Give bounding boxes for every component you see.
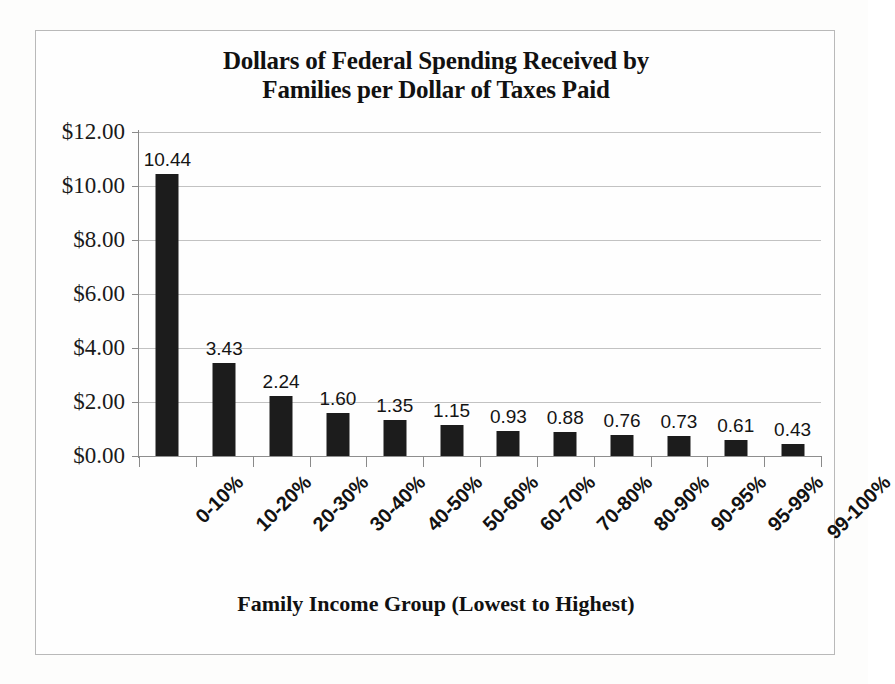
- x-axis-category-label: 90-95%: [706, 471, 771, 536]
- bar[interactable]: [270, 396, 293, 456]
- bar[interactable]: [213, 363, 236, 456]
- x-axis-tick: [253, 456, 254, 467]
- plot-area: $0.00$2.00$4.00$6.00$8.00$10.00$12.00 10…: [139, 132, 821, 456]
- x-axis-category-label: 99-100%: [823, 471, 895, 544]
- chart-title-line-1: Dollars of Federal Spending Received by: [96, 46, 776, 75]
- y-axis-tick-label: $8.00: [73, 227, 125, 253]
- x-axis-tick: [764, 456, 765, 467]
- x-axis-category-label: 10-20%: [251, 471, 316, 536]
- y-axis-tick: [132, 348, 139, 349]
- x-axis-category-label: 70-80%: [592, 471, 657, 536]
- x-axis-tick: [310, 456, 311, 467]
- bar[interactable]: [383, 420, 406, 456]
- x-axis-tick: [423, 456, 424, 467]
- bar-slot: 0.43: [764, 132, 821, 456]
- bar-slot: 0.61: [707, 132, 764, 456]
- bar-slot: 0.76: [594, 132, 651, 456]
- x-axis-title: Family Income Group (Lowest to Highest): [36, 591, 836, 617]
- x-axis-tick: [366, 456, 367, 467]
- bar-value-label: 3.43: [206, 338, 243, 360]
- x-axis-tick: [707, 456, 708, 467]
- x-axis-tick: [651, 456, 652, 467]
- bar-value-label: 0.73: [660, 411, 697, 433]
- x-axis-category-labels: 0-10%10-20%20-30%30-40%40-50%50-60%60-70…: [139, 471, 821, 581]
- bar-slot: 2.24: [253, 132, 310, 456]
- bar-value-label: 10.44: [144, 149, 192, 171]
- bar[interactable]: [781, 444, 804, 456]
- bar-slot: 1.60: [310, 132, 367, 456]
- x-axis-tick: [594, 456, 595, 467]
- x-axis-tick: [480, 456, 481, 467]
- bar-value-label: 0.76: [604, 410, 641, 432]
- y-axis-tick-label: $4.00: [73, 335, 125, 361]
- y-axis-tick-label: $0.00: [73, 443, 125, 469]
- bar-slot: 0.88: [537, 132, 594, 456]
- x-axis-tick: [139, 456, 140, 467]
- bar-value-label: 0.43: [774, 419, 811, 441]
- bar[interactable]: [326, 413, 349, 456]
- x-axis-ticks: [139, 456, 821, 468]
- bar[interactable]: [724, 440, 747, 456]
- bar-slot: 0.73: [651, 132, 708, 456]
- bar[interactable]: [497, 431, 520, 456]
- bar[interactable]: [611, 435, 634, 456]
- y-axis-tick: [132, 456, 139, 457]
- bar-value-label: 1.35: [376, 395, 413, 417]
- y-axis-tick-label: $6.00: [73, 281, 125, 307]
- y-axis-tick-label: $12.00: [62, 119, 125, 145]
- bar-slot: 0.93: [480, 132, 537, 456]
- bar-series: 10.443.432.241.601.351.150.930.880.760.7…: [139, 132, 821, 456]
- x-axis-tick: [196, 456, 197, 467]
- y-axis-tick: [132, 294, 139, 295]
- x-axis-category-label: 95-99%: [763, 471, 828, 536]
- bar-value-label: 0.88: [547, 407, 584, 429]
- y-axis-tick: [132, 132, 139, 133]
- bar-value-label: 1.60: [319, 388, 356, 410]
- bar[interactable]: [156, 174, 179, 456]
- y-axis-tick: [132, 186, 139, 187]
- x-axis-category-label: 60-70%: [535, 471, 600, 536]
- bar-slot: 3.43: [196, 132, 253, 456]
- y-axis-tick: [132, 402, 139, 403]
- bar-value-label: 0.93: [490, 406, 527, 428]
- bar-value-label: 0.61: [717, 415, 754, 437]
- x-axis-tick: [821, 456, 822, 467]
- bar[interactable]: [554, 432, 577, 456]
- bar-value-label: 2.24: [263, 371, 300, 393]
- bar-slot: 1.35: [366, 132, 423, 456]
- y-axis-tick-label: $2.00: [73, 389, 125, 415]
- x-axis-category-label: 20-30%: [308, 471, 373, 536]
- x-axis-category-label: 80-90%: [649, 471, 714, 536]
- x-axis-category-label: 50-60%: [479, 471, 544, 536]
- bar-slot: 10.44: [139, 132, 196, 456]
- x-axis-category-label: 30-40%: [365, 471, 430, 536]
- bar[interactable]: [667, 436, 690, 456]
- y-axis-tick: [132, 240, 139, 241]
- chart-title: Dollars of Federal Spending Received by …: [96, 46, 776, 104]
- bar[interactable]: [440, 425, 463, 456]
- bar-value-label: 1.15: [433, 400, 470, 422]
- x-axis-category-label: 0-10%: [191, 471, 248, 528]
- x-axis-category-label: 40-50%: [422, 471, 487, 536]
- x-axis-tick: [537, 456, 538, 467]
- chart-frame: Dollars of Federal Spending Received by …: [35, 30, 835, 655]
- y-axis-tick-label: $10.00: [62, 173, 125, 199]
- bar-slot: 1.15: [423, 132, 480, 456]
- chart-title-line-2: Families per Dollar of Taxes Paid: [96, 75, 776, 104]
